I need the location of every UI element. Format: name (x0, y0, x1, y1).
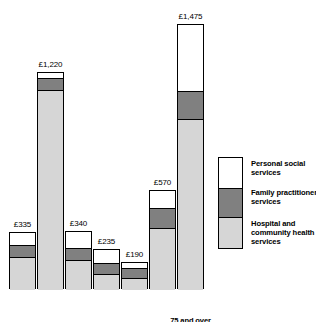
bar-group-births[interactable]: £1,220 Births (37, 72, 64, 289)
legend-swatch-personal-icon (219, 158, 242, 188)
x-axis-label-75-and-over: 75 and over (169, 316, 213, 322)
bar-stack[interactable] (65, 231, 92, 289)
bar-stack[interactable] (121, 262, 148, 289)
plot-area: £335 All ages £1,220 Births £340 (0, 0, 212, 322)
bar-group-65-74[interactable]: £570 65–74 (149, 190, 176, 289)
segment-family-practitioner-services[interactable] (150, 208, 175, 229)
bar-group-5-15[interactable]: £235 5–15 (93, 249, 120, 289)
segment-family-practitioner-services[interactable] (94, 263, 119, 275)
segment-personal-social-services[interactable] (150, 191, 175, 208)
bar-value-label: £235 (98, 237, 115, 246)
segment-hospital-and-community-health-services[interactable] (94, 275, 119, 290)
bar-stack[interactable] (9, 232, 36, 289)
segment-family-practitioner-services[interactable] (122, 268, 147, 279)
segment-personal-social-services[interactable] (178, 25, 203, 91)
stacked-bar-chart: £335 All ages £1,220 Births £340 (0, 0, 316, 322)
segment-hospital-and-community-health-services[interactable] (66, 261, 91, 290)
segment-personal-social-services[interactable] (10, 233, 35, 245)
segment-hospital-and-community-health-services[interactable] (38, 91, 63, 290)
bar-group-all-ages[interactable]: £335 All ages (9, 232, 36, 289)
segment-hospital-and-community-health-services[interactable] (178, 120, 203, 290)
bar-group-16-64[interactable]: £190 16–64 (121, 262, 148, 289)
bar-stack[interactable] (93, 249, 120, 289)
bar-value-label: £570 (154, 178, 171, 187)
legend-swatch-family-icon (219, 188, 242, 218)
bar-value-label: £1,475 (179, 12, 203, 21)
legend-swatch-hospital-icon (219, 218, 242, 248)
legend-label-personal-social-services: Personal social services (251, 159, 316, 177)
bar-value-label: £335 (14, 220, 31, 229)
segment-family-practitioner-services[interactable] (38, 78, 63, 91)
bar-stack[interactable] (149, 190, 176, 289)
legend-swatch-column (218, 157, 243, 249)
bar-value-label: £1,220 (39, 60, 63, 69)
bar-value-label: £190 (126, 250, 143, 259)
bar-group-0-4[interactable]: £340 0–4 (65, 231, 92, 289)
segment-family-practitioner-services[interactable] (178, 91, 203, 120)
bar-value-label: £340 (70, 219, 87, 228)
segment-hospital-and-community-health-services[interactable] (10, 258, 35, 290)
legend-label-family-practitioner-services: Family practitioner services (251, 188, 316, 206)
segment-family-practitioner-services[interactable] (66, 248, 91, 261)
bar-stack[interactable] (37, 72, 64, 289)
segment-hospital-and-community-health-services[interactable] (150, 229, 175, 290)
bar-group-75-and-over[interactable]: £1,475 75 and over (177, 24, 204, 289)
segment-hospital-and-community-health-services[interactable] (122, 279, 147, 290)
bar-stack[interactable] (177, 24, 204, 289)
legend-label-hospital-and-community-health-services: Hospital and community health services (251, 219, 316, 247)
segment-personal-social-services[interactable] (94, 250, 119, 263)
segment-personal-social-services[interactable] (66, 232, 91, 248)
segment-family-practitioner-services[interactable] (10, 245, 35, 258)
